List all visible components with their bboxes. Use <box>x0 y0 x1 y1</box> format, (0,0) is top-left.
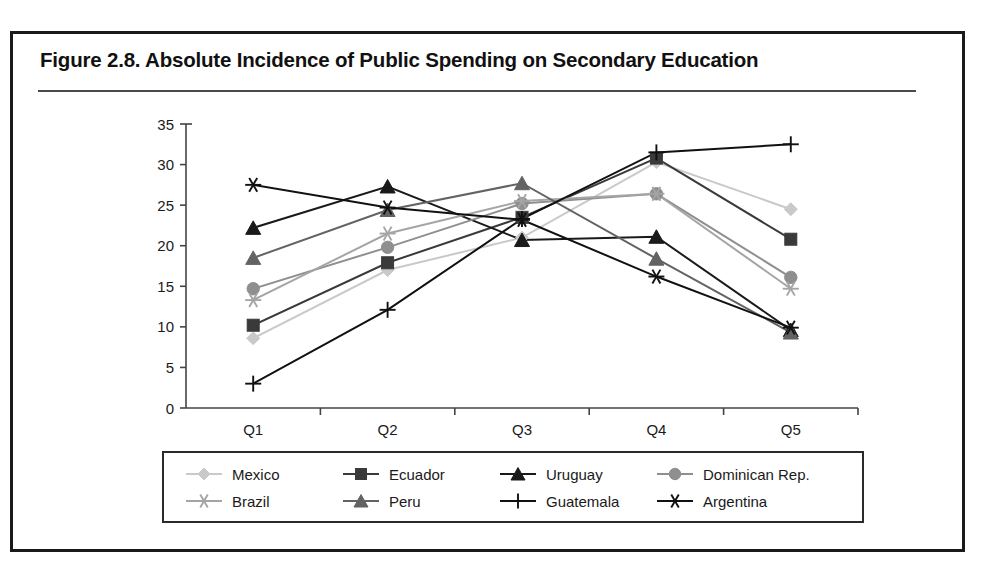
marker-triangle <box>380 179 395 193</box>
y-axis-tick-label: 0 <box>166 400 174 417</box>
marker-star <box>648 270 664 284</box>
x-axis-tick-label: Q3 <box>512 421 532 438</box>
y-axis-tick-label: 25 <box>157 197 174 214</box>
marker-star <box>197 495 212 508</box>
legend-item-mexico[interactable]: Mexico <box>186 466 280 483</box>
legend-item-label: Uruguay <box>546 466 603 483</box>
legend-item-label: Guatemala <box>546 493 620 510</box>
y-axis-tick-label: 35 <box>157 116 174 133</box>
y-axis-tick-label: 30 <box>157 156 174 173</box>
marker-circle <box>381 241 393 253</box>
legend-item-peru[interactable]: Peru <box>343 493 421 510</box>
marker-diamond <box>198 468 210 480</box>
marker-circle <box>785 271 797 283</box>
x-axis-tick-label: Q4 <box>646 421 666 438</box>
marker-triangle <box>649 252 664 266</box>
marker-diamond <box>784 203 797 216</box>
y-axis-tick-label: 5 <box>166 359 174 376</box>
marker-plus <box>380 302 396 318</box>
y-axis-tick-label: 15 <box>157 278 174 295</box>
marker-square <box>382 257 394 269</box>
marker-circle <box>669 468 680 479</box>
line-chart: 05101520253035Q1Q2Q3Q4Q5MexicoEcuadorUru… <box>0 0 993 574</box>
legend-item-argentina[interactable]: Argentina <box>657 493 768 510</box>
marker-star <box>668 495 683 508</box>
legend-item-label: Mexico <box>232 466 280 483</box>
series-layer <box>245 136 799 391</box>
marker-circle <box>247 283 259 295</box>
marker-square <box>247 319 259 331</box>
marker-star <box>245 178 261 192</box>
legend-item-label: Dominican Rep. <box>703 466 810 483</box>
legend-item-label: Argentina <box>703 493 768 510</box>
figure-page: Figure 2.8. Absolute Incidence of Public… <box>0 0 993 574</box>
marker-star <box>380 227 396 241</box>
legend-box <box>163 452 863 522</box>
x-axis-tick-label: Q2 <box>378 421 398 438</box>
chart-area: 05101520253035Q1Q2Q3Q4Q5MexicoEcuadorUru… <box>0 0 993 574</box>
marker-diamond <box>247 332 260 345</box>
marker-plus <box>245 376 261 392</box>
marker-square <box>356 469 367 480</box>
legend-item-label: Brazil <box>232 493 270 510</box>
marker-triangle <box>246 251 261 265</box>
x-axis-tick-label: Q1 <box>243 421 263 438</box>
marker-triangle <box>246 221 261 235</box>
legend-item-guatemala[interactable]: Guatemala <box>500 493 620 510</box>
legend-item-ecuador[interactable]: Ecuador <box>343 466 445 483</box>
y-axis-tick-label: 20 <box>157 237 174 254</box>
marker-square <box>785 233 797 245</box>
x-axis-tick-label: Q5 <box>781 421 801 438</box>
marker-triangle <box>515 176 530 190</box>
legend-item-brazil[interactable]: Brazil <box>186 493 270 510</box>
marker-plus <box>783 136 799 152</box>
legend-item-dominican-rep[interactable]: Dominican Rep. <box>657 466 810 483</box>
marker-circle <box>516 197 528 209</box>
legend-item-label: Peru <box>389 493 421 510</box>
legend-item-label: Ecuador <box>389 466 445 483</box>
marker-plus <box>511 494 526 509</box>
y-axis-tick-label: 10 <box>157 318 174 335</box>
legend-item-uruguay[interactable]: Uruguay <box>500 466 603 483</box>
